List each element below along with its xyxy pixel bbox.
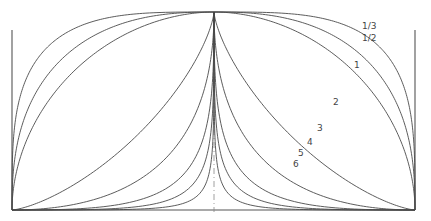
curve-left-3 [12,12,214,210]
curve-labels: 1/31/2123456 [293,21,376,169]
right-curves [214,12,415,210]
curve-label: 5 [298,148,304,158]
curve-label: 3 [317,123,323,133]
curve-right-6 [214,12,415,210]
curve-label: 4 [307,137,313,147]
curve-family-diagram: 1/31/2123456 [0,0,431,221]
curve-right-7 [214,12,415,210]
curve-left-7 [12,12,214,210]
curve-left-4 [12,12,214,210]
curve-right-1 [214,12,415,210]
curve-left-0 [12,12,214,210]
curve-right-5 [214,12,415,210]
left-curves [12,12,214,210]
curve-left-1 [12,12,214,210]
curve-left-5 [12,12,214,210]
curve-label: 1/3 [362,21,376,31]
curve-right-0 [214,12,415,210]
curve-label: 2 [333,97,339,107]
curve-right-4 [214,12,415,210]
curve-right-2 [214,12,415,210]
curve-label: 1/2 [362,33,376,43]
curve-label: 1 [354,60,360,70]
curve-left-2 [12,12,214,210]
curve-left-6 [12,12,214,210]
curve-label: 6 [293,159,299,169]
curve-right-3 [214,12,415,210]
